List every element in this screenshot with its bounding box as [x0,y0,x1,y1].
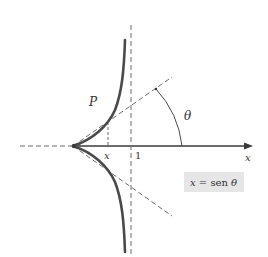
origin-cusp [72,144,76,148]
formula-text: x = sen θ [190,177,237,188]
label-theta: θ [184,109,192,123]
theta-arc-end-dot [155,88,157,90]
theta-arc [156,89,182,146]
curve-lower [73,146,125,252]
label-x-tick: x [104,150,110,161]
label-one: 1 [135,150,141,161]
x-axis-arrow-icon [244,143,253,150]
ray-through-p [73,77,172,146]
label-x-axis: x [245,152,251,163]
curve-upper [73,40,125,146]
label-p: P [88,95,98,109]
formula-eq: = sen [196,177,231,188]
figure: P θ x 1 x x = sen θ [0,0,268,257]
formula-angle: θ [231,177,237,188]
